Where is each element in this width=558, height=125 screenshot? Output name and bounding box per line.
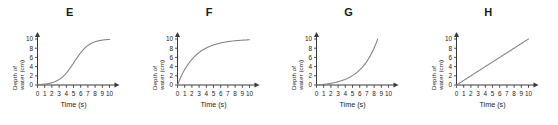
plot-area-g: 0246810012345678910Time (s)Depth ofwater… (279, 26, 419, 125)
y-axis-title-line2: water (cm) (437, 60, 444, 90)
y-axis-title-line1: Depth of (430, 66, 437, 90)
x-tick-label: 0 (454, 90, 458, 97)
x-tick-label: 7 (365, 90, 369, 97)
y-axis-arrowhead-icon (35, 32, 40, 37)
y-tick-label: 10 (305, 35, 313, 42)
x-tick-label: 6 (218, 90, 222, 97)
panel-letter-f: F (140, 6, 280, 18)
data-curve-e (38, 39, 110, 84)
x-tick-label: 9 (519, 90, 523, 97)
y-tick-label: 0 (29, 81, 33, 88)
y-axis-arrowhead-icon (174, 32, 179, 37)
x-tick-label: 4 (65, 90, 69, 97)
x-tick-label: 3 (57, 90, 61, 97)
x-tick-label: 10 (385, 90, 393, 97)
x-tick-label: 1 (461, 90, 465, 97)
x-axis-title: Time (s) (60, 100, 86, 109)
graph-panel-e: E0246810012345678910Time (s)Depth ofwate… (0, 0, 140, 125)
x-tick-label: 3 (197, 90, 201, 97)
plot-area-e: 0246810012345678910Time (s)Depth ofwater… (0, 26, 140, 125)
y-axis-arrowhead-icon (453, 32, 458, 37)
x-axis-title: Time (s) (339, 100, 365, 109)
x-axis-title: Time (s) (479, 100, 505, 109)
y-tick-label: 6 (169, 54, 173, 61)
y-axis-title-line2: water (cm) (18, 60, 25, 90)
data-curve-f (177, 40, 249, 85)
x-tick-label: 2 (469, 90, 473, 97)
x-tick-label: 6 (79, 90, 83, 97)
x-tick-label: 9 (101, 90, 105, 97)
x-tick-label: 8 (93, 90, 97, 97)
y-tick-label: 2 (29, 72, 33, 79)
y-axis-arrowhead-icon (314, 32, 319, 37)
x-axis-arrowhead-icon (254, 82, 259, 87)
y-tick-label: 6 (29, 54, 33, 61)
graph-panel-row: E0246810012345678910Time (s)Depth ofwate… (0, 0, 558, 125)
x-axis-arrowhead-icon (533, 82, 538, 87)
x-tick-label: 7 (86, 90, 90, 97)
y-tick-label: 8 (29, 45, 33, 52)
x-tick-label: 10 (106, 90, 114, 97)
x-axis-title: Time (s) (200, 100, 226, 109)
data-curve-g (317, 39, 378, 85)
x-tick-label: 5 (211, 90, 215, 97)
x-tick-label: 3 (336, 90, 340, 97)
x-tick-label: 0 (315, 90, 319, 97)
x-tick-label: 3 (476, 90, 480, 97)
x-tick-label: 8 (512, 90, 516, 97)
x-tick-label: 9 (380, 90, 384, 97)
y-tick-label: 4 (29, 63, 33, 70)
y-axis-title-line1: Depth of (11, 66, 18, 90)
y-tick-label: 0 (448, 81, 452, 88)
y-tick-label: 0 (169, 81, 173, 88)
x-tick-label: 0 (175, 90, 179, 97)
y-tick-label: 8 (448, 45, 452, 52)
y-tick-label: 8 (169, 45, 173, 52)
y-tick-label: 8 (308, 45, 312, 52)
x-tick-label: 5 (351, 90, 355, 97)
y-tick-label: 6 (308, 54, 312, 61)
graph-panel-g: G0246810012345678910Time (s)Depth ofwate… (279, 0, 419, 125)
y-tick-label: 2 (448, 72, 452, 79)
y-tick-label: 10 (444, 35, 452, 42)
x-tick-label: 10 (245, 90, 253, 97)
x-tick-label: 7 (505, 90, 509, 97)
panel-letter-e: E (0, 6, 140, 18)
x-tick-label: 4 (344, 90, 348, 97)
plot-area-h: 0246810012345678910Time (s)Depth ofwater… (419, 26, 558, 125)
x-tick-label: 6 (497, 90, 501, 97)
x-tick-label: 9 (240, 90, 244, 97)
x-tick-label: 7 (226, 90, 230, 97)
y-axis-title-line2: water (cm) (297, 60, 304, 90)
x-tick-label: 10 (524, 90, 532, 97)
y-tick-label: 6 (448, 54, 452, 61)
y-tick-label: 4 (308, 63, 312, 70)
y-tick-label: 2 (308, 72, 312, 79)
y-tick-label: 0 (308, 81, 312, 88)
y-axis-title-line1: Depth of (151, 66, 158, 90)
x-tick-label: 4 (483, 90, 487, 97)
x-tick-label: 5 (72, 90, 76, 97)
graph-panel-f: F0246810012345678910Time (s)Depth ofwate… (140, 0, 280, 125)
x-tick-label: 8 (372, 90, 376, 97)
y-tick-label: 10 (165, 35, 173, 42)
graph-panel-h: H0246810012345678910Time (s)Depth ofwate… (419, 0, 558, 125)
y-tick-label: 4 (169, 63, 173, 70)
x-tick-label: 2 (50, 90, 54, 97)
x-axis-arrowhead-icon (394, 82, 399, 87)
data-curve-h (456, 39, 528, 85)
x-axis-arrowhead-icon (115, 82, 120, 87)
x-tick-label: 1 (43, 90, 47, 97)
x-tick-label: 1 (322, 90, 326, 97)
x-tick-label: 4 (204, 90, 208, 97)
x-tick-label: 8 (233, 90, 237, 97)
y-axis-title-line1: Depth of (290, 66, 297, 90)
x-tick-label: 0 (36, 90, 40, 97)
x-tick-label: 2 (190, 90, 194, 97)
x-tick-label: 1 (182, 90, 186, 97)
y-axis-title-line2: water (cm) (158, 60, 165, 90)
panel-letter-h: H (419, 6, 558, 18)
x-tick-label: 5 (490, 90, 494, 97)
y-tick-label: 2 (169, 72, 173, 79)
panel-letter-g: G (279, 6, 419, 18)
